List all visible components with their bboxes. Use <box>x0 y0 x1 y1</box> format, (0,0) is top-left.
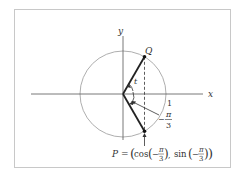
point-Q-label: Q <box>145 46 153 56</box>
eq-sin: sin <box>174 149 187 159</box>
angle-t-label: t <box>134 77 138 86</box>
pointer-line <box>133 102 159 115</box>
pi-numerator: π <box>165 110 172 119</box>
radius-one-label: 1 <box>167 99 172 108</box>
eq-equals: = <box>121 149 129 159</box>
eq-cos-neg: − <box>152 150 159 159</box>
eq-sin-neg: − <box>192 150 199 159</box>
eq-cos-three: 3 <box>159 155 163 163</box>
eq-comma: , <box>168 151 171 160</box>
eq-paren-close: ) <box>208 146 213 161</box>
point-P <box>143 129 147 133</box>
eq-sin-three: 3 <box>199 155 203 163</box>
three-denominator: 3 <box>166 121 171 130</box>
radius-to-Q <box>123 57 145 94</box>
eq-cos: cos <box>134 149 148 159</box>
neg-sign: − <box>158 115 165 124</box>
y-axis-label: y <box>117 26 124 36</box>
arrow-to-P-head <box>143 133 147 137</box>
point-P-equation: P = ( cos ( − π 3 ) , sin ( − π 3 ) ) <box>111 146 213 163</box>
eq-P: P <box>111 149 119 159</box>
unit-circle-diagram: y x 1 Q t − π 3 P = ( cos ( − π 3 ) , si… <box>0 0 244 185</box>
x-axis-label: x <box>208 89 213 99</box>
